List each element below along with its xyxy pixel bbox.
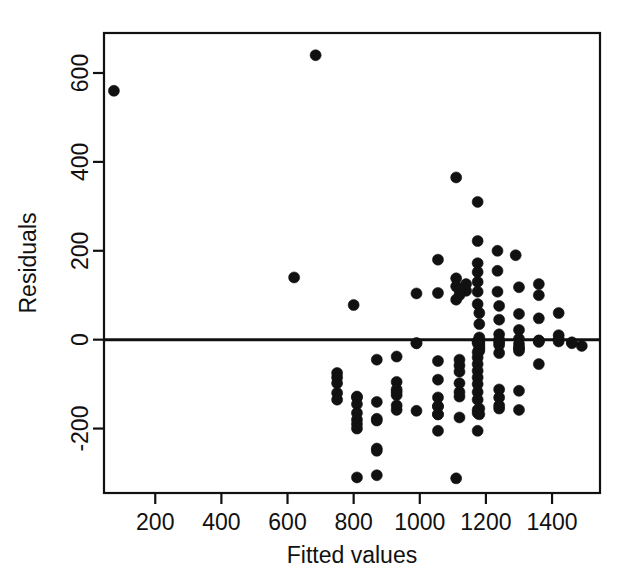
data-point: [454, 366, 465, 377]
data-point: [472, 286, 483, 297]
data-point: [332, 378, 343, 389]
data-point: [432, 254, 443, 265]
data-point: [472, 276, 483, 287]
y-tick-label-600: 600: [67, 54, 93, 92]
x-tick-label-1200: 1200: [460, 509, 511, 535]
plot-canvas: 200400600800100012001400 -2000200400600 …: [0, 0, 631, 588]
data-point: [371, 354, 382, 365]
data-point: [492, 265, 503, 276]
data-point: [513, 282, 524, 293]
data-point: [474, 308, 485, 319]
y-axis-title: Residuals: [15, 213, 41, 314]
data-point: [513, 308, 524, 319]
data-point: [494, 300, 505, 311]
data-point: [351, 391, 362, 402]
data-point: [371, 415, 382, 426]
data-point: [391, 384, 402, 395]
data-point: [576, 340, 587, 351]
data-point: [391, 400, 402, 411]
y-tick-label--200: -200: [67, 406, 93, 452]
data-point: [533, 290, 544, 301]
data-point: [494, 340, 505, 351]
data-point: [348, 300, 359, 311]
data-point: [432, 425, 443, 436]
x-tick-label-1000: 1000: [394, 509, 445, 535]
x-tick-label-600: 600: [268, 509, 306, 535]
data-point: [332, 388, 343, 399]
data-point: [533, 336, 544, 347]
data-point: [454, 284, 465, 295]
data-point: [432, 356, 443, 367]
data-point: [432, 288, 443, 299]
data-point: [513, 385, 524, 396]
x-tick-label-800: 800: [334, 509, 372, 535]
data-point: [432, 409, 443, 420]
x-axis-tick-labels: 200400600800100012001400: [136, 509, 578, 535]
data-point: [411, 288, 422, 299]
x-axis-title: Fitted values: [287, 542, 417, 568]
data-point: [472, 425, 483, 436]
data-point: [371, 396, 382, 407]
residual-plot-figure: 200400600800100012001400 -2000200400600 …: [0, 0, 631, 588]
data-point: [533, 313, 544, 324]
data-point: [494, 314, 505, 325]
data-point: [492, 286, 503, 297]
data-point: [566, 337, 577, 348]
data-point: [494, 400, 505, 411]
y-tick-label-0: 0: [67, 333, 93, 346]
data-point: [391, 351, 402, 362]
data-point: [310, 50, 321, 61]
x-tick-label-200: 200: [136, 509, 174, 535]
data-point: [533, 279, 544, 290]
data-point: [351, 423, 362, 434]
data-point: [472, 196, 483, 207]
data-point: [108, 85, 119, 96]
data-point: [513, 404, 524, 415]
data-point: [472, 236, 483, 247]
data-point: [513, 342, 524, 353]
data-point: [371, 470, 382, 481]
data-point: [553, 308, 564, 319]
data-point: [371, 445, 382, 456]
data-point: [454, 412, 465, 423]
data-point: [432, 374, 443, 385]
data-point: [289, 272, 300, 283]
data-point: [474, 409, 485, 420]
data-point: [492, 245, 503, 256]
data-point: [474, 319, 485, 330]
data-point: [451, 473, 462, 484]
data-point: [472, 338, 483, 349]
data-point: [553, 333, 564, 344]
data-point: [454, 391, 465, 402]
data-point: [351, 472, 362, 483]
x-tick-label-1400: 1400: [526, 509, 577, 535]
data-point: [533, 359, 544, 370]
data-point: [411, 338, 422, 349]
data-point: [510, 250, 521, 261]
y-tick-label-400: 400: [67, 143, 93, 181]
data-point: [411, 405, 422, 416]
data-point: [472, 267, 483, 278]
x-tick-label-400: 400: [202, 509, 240, 535]
data-point: [451, 172, 462, 183]
y-tick-label-200: 200: [67, 232, 93, 270]
